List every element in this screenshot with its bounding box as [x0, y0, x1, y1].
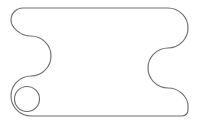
- drawing-canvas: [0, 0, 199, 128]
- part-outline-svg: [0, 0, 199, 128]
- mounting-hole-circle: [15, 87, 40, 112]
